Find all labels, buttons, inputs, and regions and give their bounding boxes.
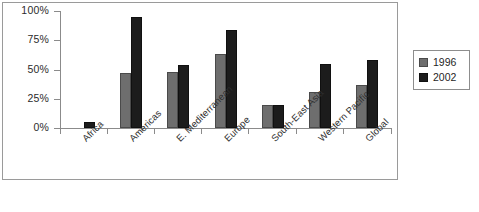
gray-swatch-icon [419, 58, 428, 67]
bar-2002-global [367, 60, 378, 128]
x-tick-mark [248, 128, 249, 134]
bar-1996-americas [120, 73, 131, 128]
y-tick-label: 75% [27, 33, 49, 45]
x-axis-line [60, 128, 391, 129]
bar-2002-africa [84, 122, 95, 128]
x-tick-mark [154, 128, 155, 134]
x-tick-mark [391, 128, 392, 134]
bar-1996-europe [215, 54, 226, 128]
x-tick-mark [60, 128, 61, 134]
legend-item-2002: 2002 [419, 70, 469, 85]
y-tick-label: 0% [33, 121, 49, 133]
legend-label: 2002 [433, 72, 456, 83]
bar-2002-europe [226, 30, 237, 128]
bar-2002-americas [131, 17, 142, 128]
bar-1996-e-mediterranean [167, 72, 178, 128]
bar-2002-e-mediterranean [178, 65, 189, 128]
bar-2002-western-pacific [320, 64, 331, 128]
x-tick-mark [343, 128, 344, 134]
x-tick-mark [107, 128, 108, 134]
bar-chart-figure: 0% 25% 50% 75% 100% AfricaAmericasE. Med… [0, 0, 479, 212]
y-tick-label: 25% [27, 92, 49, 104]
y-tick-label: 50% [27, 63, 49, 75]
y-tick-label: 100% [21, 4, 49, 16]
legend-item-1996: 1996 [419, 55, 469, 70]
x-tick-mark [296, 128, 297, 134]
bar-1996-western-pacific [309, 92, 320, 128]
bar-2002-south-east-asia [273, 105, 284, 128]
bars-layer [60, 11, 391, 128]
legend-label: 1996 [433, 57, 456, 68]
x-tick-mark [201, 128, 202, 134]
black-swatch-icon [419, 73, 428, 82]
chart-legend: 1996 2002 [413, 50, 470, 90]
bar-1996-global [356, 85, 367, 128]
bar-1996-south-east-asia [262, 105, 273, 128]
